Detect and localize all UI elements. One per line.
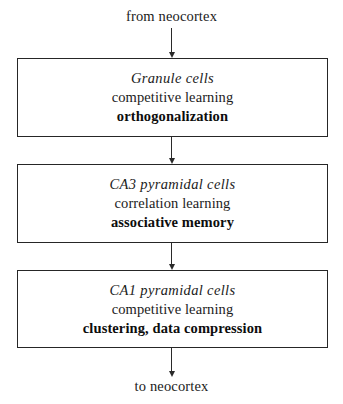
stage-title-ca3: CA3 pyramidal cells (110, 175, 236, 194)
input-source-label: from neocortex (0, 8, 343, 25)
stage-title-granule: Granule cells (131, 69, 214, 88)
arrow-granule-to-ca3 (168, 137, 176, 165)
stage-function-ca3: associative memory (111, 213, 234, 232)
stage-box-granule: Granule cells competitive learning ortho… (17, 58, 328, 137)
stage-rule-ca1: competitive learning (112, 300, 234, 319)
stage-function-ca1: clustering, data compression (83, 319, 262, 338)
arrow-shaft (171, 243, 172, 266)
arrow-shaft (171, 28, 172, 54)
stage-rule-granule: competitive learning (112, 88, 234, 107)
output-target-label: to neocortex (0, 378, 343, 395)
stage-title-ca1: CA1 pyramidal cells (110, 281, 236, 300)
stage-box-ca3: CA3 pyramidal cells correlation learning… (17, 164, 328, 243)
arrow-shaft (171, 137, 172, 160)
stage-rule-ca3: correlation learning (115, 194, 231, 213)
flowchart-diagram: from neocortex Granule cells competitive… (0, 0, 343, 404)
arrow-input-to-granule (168, 28, 176, 59)
stage-function-granule: orthogonalization (117, 107, 228, 126)
arrow-ca1-to-output (168, 348, 176, 378)
arrow-head-icon (169, 371, 175, 377)
arrow-ca3-to-ca1 (168, 243, 176, 271)
arrow-shaft (171, 348, 172, 373)
stage-box-ca1: CA1 pyramidal cells competitive learning… (17, 270, 328, 348)
